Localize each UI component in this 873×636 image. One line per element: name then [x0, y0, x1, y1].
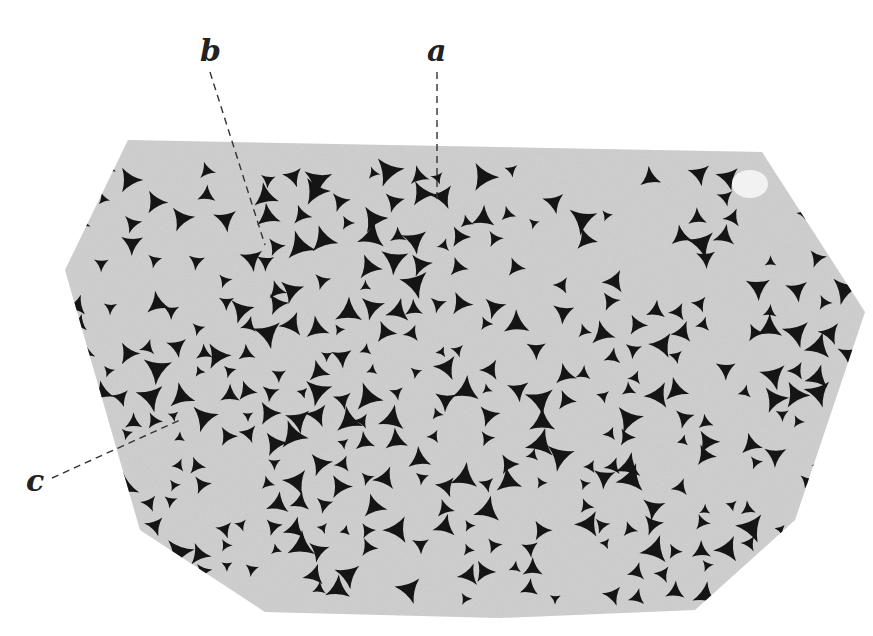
section-outline	[65, 140, 865, 618]
micrograph-figure	[0, 0, 873, 636]
label-c: c	[26, 466, 44, 496]
label-b: b	[200, 36, 221, 66]
void-spot	[732, 170, 768, 198]
label-a: a	[427, 36, 446, 66]
